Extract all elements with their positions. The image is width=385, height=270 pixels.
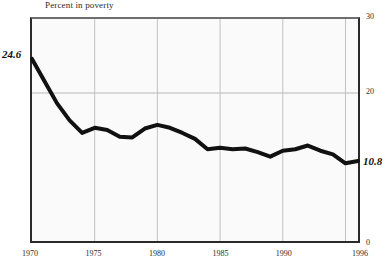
data-line <box>32 59 358 163</box>
x-axis-tick-label: 1985 <box>212 249 228 258</box>
x-axis-tick-label: 1980 <box>149 249 165 258</box>
start-value-label: 24.6 <box>2 48 21 60</box>
chart-title: Percent in poverty <box>45 0 114 10</box>
x-axis-tick-label: 1970 <box>22 249 38 258</box>
x-axis-tick-label: 1975 <box>85 249 101 258</box>
plot-frame <box>30 17 360 243</box>
y-axis-tick-label: 20 <box>366 87 374 96</box>
x-axis-tick-label: 1990 <box>276 249 292 258</box>
data-line-layer <box>32 19 358 241</box>
plot-area <box>32 19 358 241</box>
chart-screenshot: Percent in poverty 30200 197019751980198… <box>0 0 385 270</box>
y-axis-tick-label: 0 <box>366 238 370 247</box>
x-axis-tick-label: 1996 <box>352 249 368 258</box>
end-value-label: 10.8 <box>363 155 382 167</box>
y-axis-tick-label: 30 <box>366 12 374 21</box>
